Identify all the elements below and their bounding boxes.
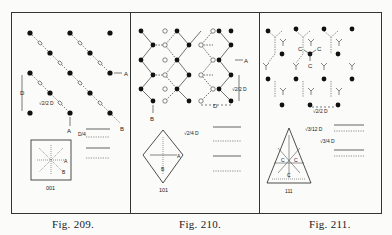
label-separation: √2/4 D bbox=[184, 130, 199, 136]
inset-label-B: B bbox=[161, 166, 165, 172]
label-B-diag: B bbox=[120, 126, 124, 132]
face-label-001: 001 bbox=[46, 185, 55, 191]
inset-label-C3: C bbox=[287, 172, 291, 178]
label-separation-2: √3/4 D bbox=[320, 138, 335, 144]
inset-label-B: B bbox=[62, 169, 66, 175]
fig-210-lattice: A B √2/2 D D √2/4 D A B 101 bbox=[131, 13, 259, 213]
inset-label-C2: C bbox=[294, 157, 298, 163]
fig-209-lattice: A B A D √2/2 D D/4 A B 001 bbox=[12, 13, 130, 213]
face-label-111: 111 bbox=[285, 188, 293, 194]
label-spacing: √2/2 D bbox=[313, 108, 328, 114]
fig-210-panel: A B √2/2 D D √2/4 D A B 101 bbox=[131, 13, 259, 213]
label-separation: D/4 bbox=[78, 131, 86, 137]
label-A-right: A bbox=[124, 71, 128, 77]
caption-fig-209: Fig. 209. bbox=[52, 218, 94, 230]
label-D-vertical: D bbox=[20, 90, 25, 96]
label-D-horizontal: D bbox=[213, 103, 218, 109]
label-spacing: √2/2 D bbox=[39, 100, 54, 106]
fig-209-panel: A B A D √2/2 D D/4 A B 001 bbox=[12, 13, 130, 213]
inset-label-C1: C bbox=[281, 157, 285, 163]
label-A-right: A bbox=[244, 58, 248, 64]
inset-label-A: A bbox=[64, 158, 68, 164]
label-C1: C bbox=[298, 46, 303, 52]
label-C2: C bbox=[317, 46, 322, 52]
caption-fig-210: Fig. 210. bbox=[179, 218, 221, 230]
label-spacing-vertical: √2/2 D bbox=[232, 86, 247, 92]
fig-211-panel: C C C √2/2 D √3/12 D √3/4 D C C C 111 bbox=[260, 13, 381, 213]
label-A-bottom: A bbox=[67, 128, 71, 134]
label-C3: C bbox=[308, 63, 313, 69]
fig-211-lattice: C C C √2/2 D √3/12 D √3/4 D C C C 111 bbox=[260, 13, 381, 213]
label-separation-1: √3/12 D bbox=[305, 126, 323, 132]
label-B-bottom: B bbox=[150, 116, 154, 122]
face-label-101: 101 bbox=[159, 187, 168, 193]
caption-fig-211: Fig. 211. bbox=[309, 218, 351, 230]
